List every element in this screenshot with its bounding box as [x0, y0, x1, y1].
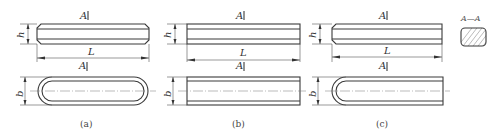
view-c: A h L A b (c): [307, 10, 450, 129]
caption-c: (c): [376, 119, 388, 129]
section-label: A—A: [460, 14, 481, 23]
view-b-front: A h L A: [162, 10, 300, 71]
view-a-top: b: [14, 77, 156, 105]
caption-b: (b): [232, 119, 245, 129]
view-a-front: A h L A: [15, 10, 149, 71]
dim-h-a: h: [15, 32, 26, 38]
caption-a: (a): [80, 119, 92, 129]
view-b: A h L A b: [162, 10, 306, 129]
section-mark-c-bottom: A: [378, 60, 386, 71]
dim-b-b: b: [162, 91, 173, 97]
dim-b-a: b: [14, 91, 25, 97]
dim-l-b: L: [239, 47, 247, 58]
section-mark-a-top: A: [79, 10, 87, 21]
dim-l-c: L: [383, 45, 391, 56]
section-mark-b-bottom: A: [235, 60, 243, 71]
dim-l-a: L: [87, 46, 95, 57]
view-b-top: b: [162, 77, 306, 105]
section-a-a: A—A: [455, 14, 500, 50]
dim-h-b: h: [162, 32, 173, 38]
dim-b-c: b: [307, 91, 318, 97]
view-c-top: b: [307, 77, 450, 105]
view-a: A h L A: [14, 10, 156, 129]
key-types-drawing: A h L A: [0, 0, 501, 138]
view-c-front: A h L A: [307, 10, 442, 71]
section-mark-c-top: A: [378, 10, 386, 21]
dim-h-c: h: [307, 32, 318, 38]
section-mark-a-bottom: A: [78, 60, 86, 71]
section-mark-b-top: A: [235, 10, 243, 21]
